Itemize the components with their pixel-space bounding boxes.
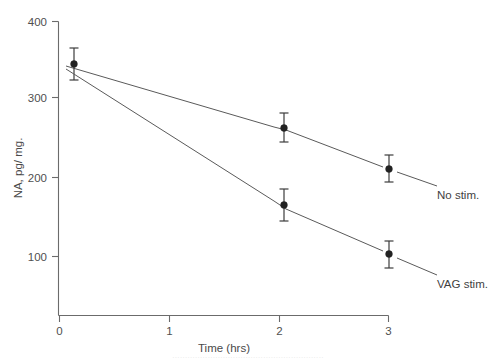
y-tick-label-200: 200: [28, 172, 47, 184]
y-tick-labels: 400 300 200 100: [28, 16, 47, 263]
x-tick-label-1: 1: [166, 325, 172, 337]
x-tick-label-2: 2: [276, 325, 282, 337]
data-point-vag-stim-t2: [281, 202, 288, 209]
series-vag-stim: VAG stim.: [66, 69, 488, 290]
series-no-stim: No stim.: [66, 48, 479, 201]
series-no-stim-line: [66, 66, 383, 167]
y-tick-label-100: 100: [28, 251, 47, 263]
series-label-no-stim: No stim.: [437, 189, 479, 201]
x-tick-label-3: 3: [385, 325, 391, 337]
y-tick-label-400: 400: [28, 16, 47, 28]
axis-group: [52, 22, 389, 323]
x-tick-label-0: 0: [56, 325, 62, 337]
figure-container: 400 300 200 100 0 1 2 3 NA, pg/ mg. Time…: [0, 0, 496, 361]
chart-canvas: 400 300 200 100 0 1 2 3 NA, pg/ mg. Time…: [0, 0, 496, 361]
data-point-no-stim-t2: [281, 125, 288, 132]
y-tick-label-300: 300: [28, 92, 47, 104]
series-label-vag-stim: VAG stim.: [437, 278, 488, 290]
leader-line-vag-stim: [397, 258, 437, 275]
data-point-no-stim-t3: [386, 166, 393, 173]
figure-caption-cropped: ........................................…: [0, 351, 496, 361]
series-vag-stim-line: [66, 69, 383, 251]
y-axis-title: NA, pg/ mg.: [12, 138, 24, 199]
data-point-no-stim-t0: [71, 61, 78, 68]
x-tick-labels: 0 1 2 3: [56, 325, 391, 337]
leader-line-no-stim: [397, 172, 437, 186]
data-point-vag-stim-t3: [386, 251, 393, 258]
